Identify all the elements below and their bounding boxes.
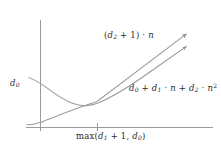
annotation-linear-function: (d2 + 1) · n	[104, 31, 154, 40]
math-plot-figure: (d2 + 1) · n d0 + d1 · n + d2 · n2 d0 ma…	[0, 0, 221, 153]
linear-curve	[27, 34, 187, 125]
annotation-x-tick-value: max(d1 + 1, d0)	[76, 132, 146, 141]
annotation-y-intercept: d0	[10, 79, 20, 88]
annotation-quadratic-function: d0 + d1 · n + d2 · n2	[129, 83, 217, 93]
quadratic-curve	[29, 46, 187, 105]
